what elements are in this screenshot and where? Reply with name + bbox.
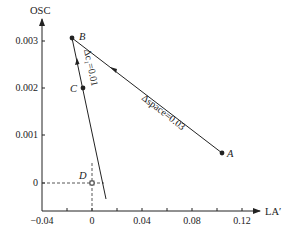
ba-line-label: Δspace=0.03	[140, 92, 188, 132]
x-tick-label: 0.08	[183, 215, 201, 226]
direction-arrow-icon	[75, 58, 80, 65]
point-b-label: B	[79, 31, 86, 42]
x-tick-label: 0	[90, 215, 95, 226]
direction-arrow-icon	[110, 67, 117, 73]
y-tick-label: 0.002	[16, 82, 39, 93]
bc-line-label: Δc₁=0.01	[82, 48, 101, 87]
point-a-label: A	[226, 148, 234, 159]
x-axis: −0.04 0 0.04 0.08 0.12 LA′	[30, 206, 281, 226]
d-guides	[42, 163, 104, 211]
x-tick-label: 0.04	[133, 215, 151, 226]
y-axis-title: OSC	[30, 5, 50, 16]
point-c-label: C	[70, 83, 78, 94]
x-tick-label: 0.12	[233, 215, 251, 226]
point-a: A	[220, 148, 234, 159]
y-tick-label: 0.001	[16, 129, 39, 140]
y-tick-label: 0.003	[16, 35, 39, 46]
line-bc: Δc₁=0.01	[72, 38, 106, 199]
x-axis-title: LA′	[265, 206, 281, 217]
point-d-label: D	[78, 170, 87, 181]
point-d: D	[78, 170, 94, 185]
point-b: B	[70, 31, 86, 42]
x-tick-label: −0.04	[30, 215, 53, 226]
osc-vs-la-diagram: OSC 0.003 0.002 0.001 0 −0.04 0 0.04 0.0…	[0, 0, 294, 237]
y-axis: OSC 0.003 0.002 0.001 0	[16, 5, 51, 211]
y-tick-label: 0	[33, 177, 38, 188]
